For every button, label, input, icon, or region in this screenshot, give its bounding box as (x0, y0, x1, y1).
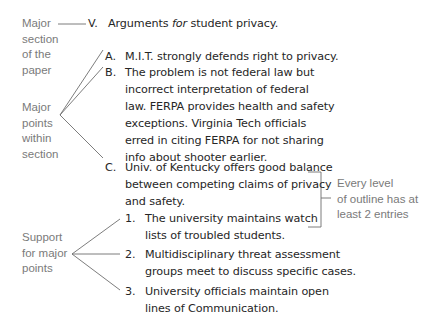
point-a: M.I.T. strongly defends right to privacy… (125, 48, 339, 65)
annotation-every-level: Every level of outline has at least 2 en… (337, 176, 418, 223)
connector-point-c (60, 115, 103, 158)
point-line: exceptions. Virginia Tech officials (125, 115, 335, 132)
point-line: erred in citing FERPA for not sharing (125, 132, 335, 149)
point-line: law. FERPA provides health and safety (125, 98, 335, 115)
section-heading-text: Arguments (108, 17, 172, 30)
connector-support-1 (72, 219, 120, 254)
point-b-marker: B. (105, 64, 116, 81)
annotation-line: within (22, 131, 58, 147)
support-2: Multidisciplinary threat assessment grou… (145, 246, 356, 280)
annotation-line: section (22, 147, 58, 163)
point-line: The problem is not federal law but (125, 64, 335, 81)
annotation-line: points (22, 116, 58, 132)
support-1-marker: 1. (125, 210, 136, 227)
support-line: lines of Communication. (145, 300, 329, 317)
annotation-line: least 2 entries (337, 207, 418, 223)
support-3-marker: 3. (125, 283, 136, 300)
annotation-line: Major (22, 100, 58, 116)
annotation-line: for major (22, 246, 67, 262)
annotation-line: of the (22, 47, 58, 63)
annotation-line: paper (22, 63, 58, 79)
support-line: groups meet to discuss specific cases. (145, 263, 356, 280)
annotation-major-points: Major points within section (22, 100, 58, 162)
annotation-support: Support for major points (22, 230, 67, 277)
connector-point-a (60, 50, 103, 115)
section-heading-emphasis: for (172, 17, 187, 30)
support-3: University officials maintain open lines… (145, 283, 329, 317)
point-a-marker: A. (105, 48, 116, 65)
annotation-line: section (22, 32, 58, 48)
support-1: The university maintains watch lists of … (145, 210, 318, 244)
point-line: Univ. of Kentucky offers good balance (125, 159, 333, 176)
section-heading-text: student privacy. (187, 17, 278, 30)
annotation-major-section: Major section of the paper (22, 16, 58, 78)
point-line: M.I.T. strongly defends right to privacy… (125, 48, 339, 65)
support-line: lists of troubled students. (145, 227, 318, 244)
support-line: Multidisciplinary threat assessment (145, 246, 356, 263)
support-2-marker: 2. (125, 246, 136, 263)
support-line: University officials maintain open (145, 283, 329, 300)
annotation-line: Support (22, 230, 67, 246)
point-c-marker: C. (105, 159, 116, 176)
point-line: and safety. (125, 193, 333, 210)
annotation-line: Major (22, 16, 58, 32)
annotation-line: of outline has at (337, 192, 418, 208)
point-c: Univ. of Kentucky offers good balance be… (125, 159, 333, 210)
point-b: The problem is not federal law but incor… (125, 64, 335, 166)
support-line: The university maintains watch (145, 210, 318, 227)
annotation-line: points (22, 261, 67, 277)
annotation-line: Every level (337, 176, 418, 192)
section-marker: V. (88, 15, 98, 32)
point-line: incorrect interpretation of federal (125, 81, 335, 98)
section-heading: Arguments for student privacy. (108, 15, 278, 32)
point-line: between competing claims of privacy (125, 176, 333, 193)
connector-point-b (60, 67, 103, 115)
connector-support-3 (72, 254, 120, 290)
